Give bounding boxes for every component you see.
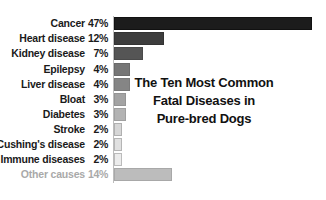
value-label: 3%	[93, 92, 108, 107]
category-label: Liver disease	[21, 77, 85, 92]
chart-title-line-1: The Ten Most Common	[134, 74, 274, 92]
bar-row-immune-diseases: Immune diseases 2%	[0, 152, 326, 167]
value-label: 12%	[88, 31, 108, 46]
category-label: Epilepsy	[43, 62, 85, 77]
bar	[114, 168, 172, 181]
bar-row-kidney-disease: Kidney disease 7%	[0, 46, 326, 61]
value-label: 3%	[93, 107, 108, 122]
bar	[114, 108, 126, 121]
bar	[114, 17, 312, 30]
bar	[114, 153, 122, 166]
bar	[114, 138, 122, 151]
value-label: 2%	[93, 137, 108, 152]
value-label: 47%	[88, 16, 108, 31]
bar	[114, 123, 122, 136]
bar-row-heart-disease: Heart disease 12%	[0, 31, 326, 46]
value-label: 7%	[93, 46, 108, 61]
bar	[114, 47, 143, 60]
horizontal-bar-chart: Cancer 47% Heart disease 12% Kidney dise…	[0, 0, 326, 200]
category-label: Immune diseases	[0, 152, 85, 167]
category-label: Kidney disease	[11, 46, 85, 61]
bar	[114, 32, 164, 45]
bar	[114, 78, 130, 91]
value-label: 2%	[93, 122, 108, 137]
category-label: Stroke	[54, 122, 85, 137]
value-label: 4%	[93, 62, 108, 77]
category-label: Cushing's disease	[0, 137, 85, 152]
category-label: Heart disease	[19, 31, 85, 46]
bar-row-cancer: Cancer 47%	[0, 16, 326, 31]
category-label: Cancer	[51, 16, 85, 31]
value-label: 4%	[93, 77, 108, 92]
chart-title-line-3: Pure-bred Dogs	[134, 110, 274, 128]
bar	[114, 93, 126, 106]
value-label: 14%	[88, 167, 108, 182]
category-label: Diabetes	[43, 107, 85, 122]
value-label: 2%	[93, 152, 108, 167]
bar-row-other-causes: Other causes 14%	[0, 167, 326, 182]
chart-title-line-2: Fatal Diseases in	[134, 92, 274, 110]
bar	[114, 63, 130, 76]
bar-row-cushings-disease: Cushing's disease 2%	[0, 137, 326, 152]
category-label: Other causes	[21, 167, 85, 182]
chart-title: The Ten Most Common Fatal Diseases in Pu…	[134, 74, 274, 128]
category-label: Bloat	[60, 92, 85, 107]
